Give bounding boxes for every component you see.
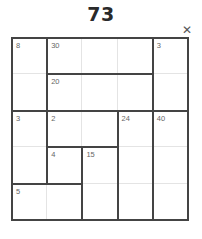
cage-sum: 3 <box>157 41 161 50</box>
cage-sum: 8 <box>16 41 20 50</box>
cage-sum: 2 <box>51 114 55 123</box>
cage-sum: 20 <box>51 77 59 86</box>
killer-grid: 8303203224404155 <box>12 38 188 220</box>
cage-sum: 4 <box>51 150 55 159</box>
cage: 24 <box>117 110 154 221</box>
puzzle-number: 73 <box>0 3 202 25</box>
cage: 20 <box>46 73 154 111</box>
cage: 2 <box>46 110 118 148</box>
cage-sum: 3 <box>16 114 20 123</box>
cage-sum: 5 <box>16 187 20 196</box>
cage: 3 <box>11 110 48 185</box>
close-icon[interactable]: ✕ <box>182 24 192 36</box>
cage: 40 <box>152 110 189 221</box>
cage-sum: 15 <box>86 150 94 159</box>
cage: 4 <box>46 146 83 184</box>
cage-sum: 24 <box>122 114 130 123</box>
cage-sum: 30 <box>51 41 59 50</box>
cage: 8 <box>11 37 48 112</box>
cage-sum: 40 <box>157 114 165 123</box>
cage: 3 <box>152 37 189 112</box>
cage: 15 <box>81 146 118 221</box>
cage: 5 <box>11 183 83 221</box>
cage: 30 <box>46 37 154 75</box>
